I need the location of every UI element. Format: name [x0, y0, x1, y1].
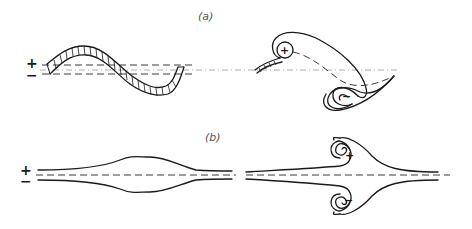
panel-b-label: (b): [205, 131, 221, 144]
panel-b: (b) + − + −: [20, 131, 450, 215]
panel-a-vortex-minus: −: [342, 90, 351, 103]
panel-b-minus-sign: −: [20, 173, 32, 189]
panel-a-label: (a): [198, 10, 213, 23]
panel-b-rolled-vortices: + −: [246, 138, 438, 215]
panel-a-sinuous-sheet: [47, 46, 184, 96]
panel-a-vortex-plus: +: [280, 44, 289, 57]
panel-a-vortex-connector: [293, 52, 394, 86]
panel-a: (a) + −: [26, 10, 400, 110]
panel-a-rolled-vortices: + −: [255, 32, 394, 110]
diagram-canvas: (a) + −: [0, 0, 472, 229]
panel-b-vortex-plus: +: [345, 149, 354, 162]
panel-a-minus-sign: −: [26, 67, 38, 83]
panel-b-vortex-minus: −: [344, 194, 353, 207]
